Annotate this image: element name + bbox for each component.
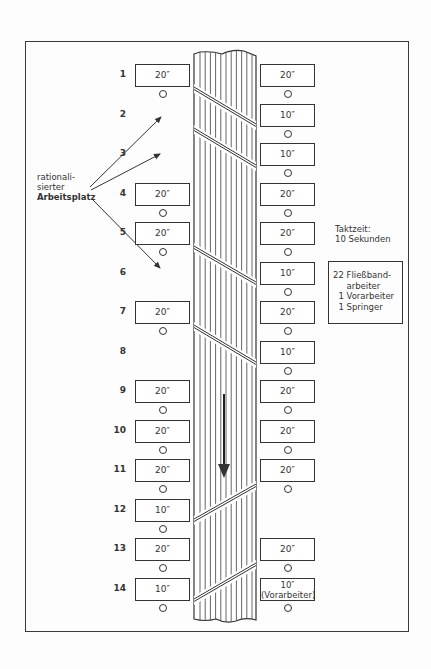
workstation-right: 20″ bbox=[260, 301, 315, 324]
workstation-left: 20″ bbox=[135, 459, 190, 482]
worker-position-icon bbox=[159, 604, 167, 612]
annotation-label-line-2: sierter bbox=[37, 182, 95, 192]
row-number: 7 bbox=[102, 306, 126, 316]
workstation-right: 20″ bbox=[260, 64, 315, 87]
row-number: 8 bbox=[102, 346, 126, 356]
workstation-left: 10″ bbox=[135, 499, 190, 522]
row-number: 14 bbox=[102, 583, 126, 593]
worker-position-icon bbox=[284, 130, 292, 138]
workstation-right: 20″ bbox=[260, 420, 315, 443]
row-number: 4 bbox=[102, 188, 126, 198]
workstation-left: 20″ bbox=[135, 183, 190, 206]
worker-position-icon bbox=[284, 367, 292, 375]
staff-line-1: 22 Fließband- bbox=[333, 270, 402, 281]
worker-position-icon bbox=[159, 446, 167, 454]
worker-position-icon bbox=[284, 90, 292, 98]
workstation-right: 10″ bbox=[260, 341, 315, 364]
row-number: 10 bbox=[102, 425, 126, 435]
annotation-label-line-3: Arbeitsplatz bbox=[37, 192, 95, 202]
row-number: 12 bbox=[102, 504, 126, 514]
worker-position-icon bbox=[284, 327, 292, 335]
worker-position-icon bbox=[284, 485, 292, 493]
staff-line-3: 1 Vorarbeiter bbox=[333, 291, 402, 302]
conveyor-belt bbox=[194, 50, 256, 625]
row-number: 5 bbox=[102, 227, 126, 237]
workstation-right: 20″ bbox=[260, 538, 315, 561]
row-number: 2 bbox=[102, 109, 126, 119]
worker-position-icon bbox=[284, 248, 292, 256]
row-number: 3 bbox=[102, 148, 126, 158]
worker-position-icon bbox=[159, 248, 167, 256]
staff-info-box: 22 Fließband- arbeiter 1 Vorarbeiter 1 S… bbox=[328, 261, 403, 324]
row-number: 11 bbox=[102, 464, 126, 474]
worker-position-icon bbox=[159, 90, 167, 98]
annotation-label-line-1: rationali- bbox=[37, 172, 95, 182]
row-number: 6 bbox=[102, 267, 126, 277]
worker-position-icon bbox=[284, 406, 292, 414]
worker-position-icon bbox=[284, 446, 292, 454]
worker-position-icon bbox=[284, 288, 292, 296]
worker-position-icon bbox=[159, 564, 167, 572]
workstation-right: 10″(Vorarbeiter) bbox=[260, 578, 315, 601]
worker-position-icon bbox=[284, 564, 292, 572]
workstation-right: 10″ bbox=[260, 104, 315, 127]
worker-position-icon bbox=[159, 485, 167, 493]
worker-position-icon bbox=[159, 525, 167, 533]
workstation-left: 20″ bbox=[135, 538, 190, 561]
workstation-right: 20″ bbox=[260, 380, 315, 403]
worker-position-icon bbox=[159, 406, 167, 414]
workstation-left: 20″ bbox=[135, 64, 190, 87]
workstation-right: 10″ bbox=[260, 262, 315, 285]
worker-position-icon bbox=[284, 169, 292, 177]
workstation-left: 20″ bbox=[135, 222, 190, 245]
staff-line-4: 1 Springer bbox=[333, 302, 402, 313]
workstation-left: 20″ bbox=[135, 420, 190, 443]
workstation-right: 20″ bbox=[260, 183, 315, 206]
staff-line-2: arbeiter bbox=[333, 281, 402, 292]
worker-position-icon bbox=[284, 604, 292, 612]
annotation-label: rationali- sierter Arbeitsplatz bbox=[37, 172, 95, 202]
worker-position-icon bbox=[159, 327, 167, 335]
workstation-right: 20″ bbox=[260, 459, 315, 482]
workstation-right: 10″ bbox=[260, 143, 315, 166]
row-number: 1 bbox=[102, 69, 126, 79]
conveyor-belt-graphic bbox=[0, 0, 431, 669]
cycle-time-title: Taktzeit: bbox=[335, 224, 391, 234]
workstation-left: 10″ bbox=[135, 578, 190, 601]
worker-position-icon bbox=[284, 209, 292, 217]
workstation-left: 20″ bbox=[135, 301, 190, 324]
workstation-left: 20″ bbox=[135, 380, 190, 403]
worker-position-icon bbox=[159, 209, 167, 217]
cycle-time-value: 10 Sekunden bbox=[335, 234, 391, 244]
row-number: 9 bbox=[102, 385, 126, 395]
row-number: 13 bbox=[102, 543, 126, 553]
cycle-time-label: Taktzeit: 10 Sekunden bbox=[335, 224, 391, 244]
workstation-right: 20″ bbox=[260, 222, 315, 245]
